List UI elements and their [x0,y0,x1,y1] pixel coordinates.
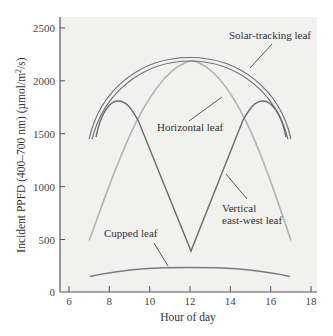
x-tick-label: 10 [144,295,156,307]
y-tick-label: 0 [50,286,56,298]
y-tick-label: 1000 [33,181,56,193]
y-tick-label: 500 [39,234,56,246]
x-tick-label: 14 [225,295,237,307]
solar-tracking-label: Solar-tracking leaf [229,29,311,41]
y-tick-label: 2000 [33,75,56,87]
horizontal-label: Horizontal leaf [157,121,224,133]
x-tick-label: 12 [185,295,196,307]
x-tick-label: 8 [107,295,113,307]
plot-area [60,17,317,292]
x-tick-label: 6 [66,295,72,307]
vertical-label-line2: east-west leaf [222,214,282,226]
ppfd-chart: 0 500 1000 1500 2000 2500 6 8 10 12 14 1… [0,0,333,336]
vertical-label-line1: Vertical [222,202,256,214]
x-tick-label: 16 [265,295,277,307]
x-axis-label: Hour of day [160,311,216,324]
cupped-label: Cupped leaf [104,227,158,239]
y-axis-label: Incident PPFD (400–700 nm) (µmol/m2/s) [14,57,28,252]
y-tick-label: 1500 [33,128,56,140]
x-tick-label: 18 [306,295,318,307]
y-tick-label: 2500 [33,22,56,34]
